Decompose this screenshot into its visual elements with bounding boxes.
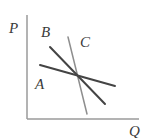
curve-c-label: C (80, 34, 91, 50)
supply-demand-diagram: P Q A B C (0, 0, 149, 138)
x-axis-label: Q (129, 123, 140, 138)
curve-b-label: B (41, 24, 50, 40)
curve-a-label: A (34, 76, 45, 92)
y-axis-label: P (8, 20, 18, 36)
curve-b (50, 47, 105, 104)
